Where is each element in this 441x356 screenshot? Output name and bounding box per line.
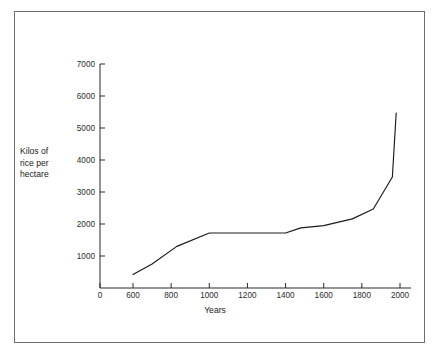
x-tick-label-800: 800 [164, 291, 178, 300]
x-axis-tick-labels: 0600800100012001400160018002000 [98, 291, 410, 300]
x-tick-label-1400: 1400 [276, 291, 295, 300]
x-tick-label-1600: 1600 [315, 291, 334, 300]
x-tick-label-2000: 2000 [391, 291, 410, 300]
y-tick-label-6000: 6000 [77, 92, 96, 101]
x-axis-title: Years [204, 305, 226, 315]
x-axis-ticks [100, 283, 400, 288]
y-tick-label-4000: 4000 [77, 156, 96, 165]
y-tick-label-2000: 2000 [77, 220, 96, 229]
line-chart: 1000200030004000500060007000 06008001000… [0, 0, 441, 356]
y-tick-label-1000: 1000 [77, 252, 96, 261]
y-axis-ticks [100, 64, 105, 256]
y-axis-tick-labels: 1000200030004000500060007000 [77, 60, 96, 261]
y-tick-label-7000: 7000 [77, 60, 96, 69]
x-tick-label-1800: 1800 [353, 291, 372, 300]
x-tick-label-0: 0 [98, 291, 103, 300]
x-tick-label-600: 600 [126, 291, 140, 300]
y-tick-label-5000: 5000 [77, 124, 96, 133]
y-tick-label-3000: 3000 [77, 188, 96, 197]
figure-canvas: Kilos of rice per hectare 10002000300040… [0, 0, 441, 356]
y-axis: 1000200030004000500060007000 [77, 60, 105, 288]
x-tick-label-1000: 1000 [200, 291, 219, 300]
x-tick-label-1200: 1200 [238, 291, 257, 300]
rice-yield-line [133, 113, 396, 275]
x-axis: 0600800100012001400160018002000 [98, 283, 411, 300]
